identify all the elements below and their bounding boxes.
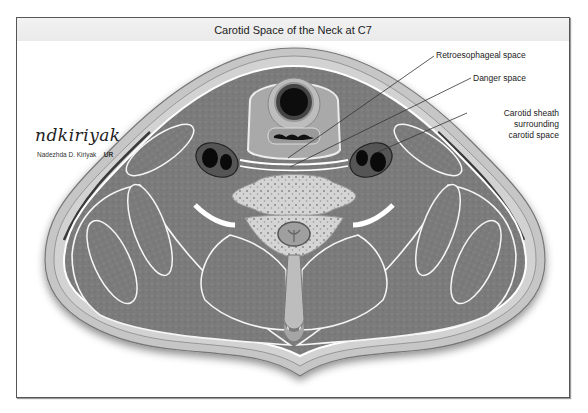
label-danger-space: Danger space: [473, 73, 526, 84]
signature-script: ndkiriyak: [35, 127, 121, 143]
neck-cross-section-illustration: [0, 0, 588, 413]
spinous-process: [284, 255, 304, 329]
label-carotid-line1: Carotid sheath: [468, 108, 559, 119]
label-carotid-line2: surrounding: [468, 119, 559, 130]
label-carotid-line3: carotid space: [468, 130, 559, 141]
label-carotid-sheath: Carotid sheath surrounding carotid space: [468, 108, 559, 141]
signature-name: Nadezhda D. Kiriyak: [37, 151, 96, 158]
label-retroesophageal-space: Retroesophageal space: [436, 50, 526, 61]
artist-signature: ndkiriyak Nadezhda D. Kiriyak UR: [35, 127, 121, 161]
trachea-lumen: [280, 88, 308, 116]
university-logo-icon: UR: [104, 151, 113, 158]
